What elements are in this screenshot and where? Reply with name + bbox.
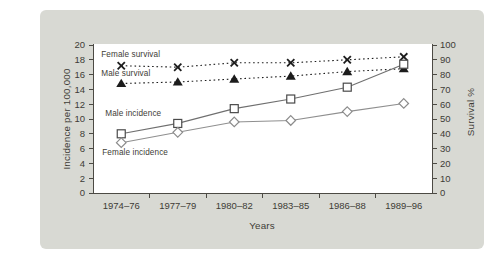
right-tick-label: 60 xyxy=(440,99,451,110)
right-tick-label: 30 xyxy=(440,143,451,154)
left-tick-label: 16 xyxy=(74,69,85,80)
right-tick-label: 90 xyxy=(440,54,451,65)
square-marker xyxy=(230,105,238,113)
figure: 0246810121416182001020304050607080901001… xyxy=(0,0,492,260)
right-tick-label: 20 xyxy=(440,158,451,169)
right-tick-label: 40 xyxy=(440,128,451,139)
x-axis-title: Years xyxy=(249,220,275,231)
left-tick-label: 10 xyxy=(74,113,85,124)
left-tick-label: 20 xyxy=(74,39,85,50)
left-tick-label: 0 xyxy=(80,187,85,198)
x-tick-label: 1980–82 xyxy=(216,200,253,211)
left-axis-title: Incidence per 100,000 xyxy=(61,68,72,169)
right-tick-label: 0 xyxy=(440,187,445,198)
square-marker xyxy=(343,83,351,91)
right-tick-label: 70 xyxy=(440,84,451,95)
left-tick-label: 6 xyxy=(80,143,85,154)
series-label-3: Female incidence xyxy=(102,148,168,157)
x-tick-label: 1983–85 xyxy=(272,200,309,211)
x-tick-label: 1986–88 xyxy=(329,200,366,211)
left-tick-label: 12 xyxy=(74,99,85,110)
series-label-2: Male incidence xyxy=(105,109,161,118)
left-tick-label: 14 xyxy=(74,84,85,95)
left-tick-label: 8 xyxy=(80,128,85,139)
chart: 0246810121416182001020304050607080901001… xyxy=(0,0,492,260)
square-marker xyxy=(174,119,182,127)
right-tick-label: 100 xyxy=(440,39,456,50)
left-tick-label: 2 xyxy=(80,173,85,184)
series-label-1: Male survival xyxy=(101,69,150,78)
right-axis-title: Survival % xyxy=(465,88,476,136)
square-marker xyxy=(287,95,295,103)
right-tick-label: 10 xyxy=(440,173,451,184)
square-marker xyxy=(400,60,408,68)
left-tick-label: 4 xyxy=(80,158,85,169)
x-tick-label: 1977–79 xyxy=(159,200,196,211)
left-tick-label: 18 xyxy=(74,54,85,65)
x-tick-label: 1974–76 xyxy=(103,200,140,211)
x-tick-label: 1989–96 xyxy=(385,200,422,211)
square-marker xyxy=(117,130,125,138)
right-tick-label: 80 xyxy=(440,69,451,80)
right-tick-label: 50 xyxy=(440,113,451,124)
series-label-0: Female survival xyxy=(101,50,160,59)
